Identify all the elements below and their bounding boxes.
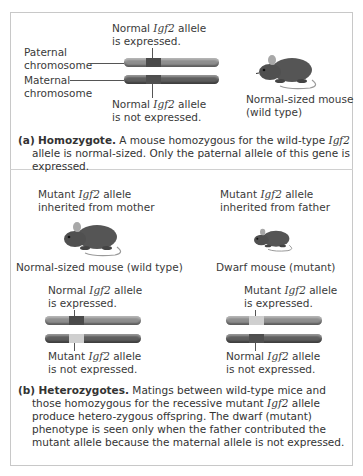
label-a-top-allele: Normal Igf2 allele is expressed. — [112, 22, 206, 48]
label-a-bottom-allele: Normal Igf2 allele is not expressed. — [112, 98, 206, 124]
label-b-left-title: Mutant Igf2 allele inherited from mother — [38, 188, 154, 214]
normal-allele-band — [69, 316, 84, 325]
label-b-left-mouse: Normal-sized mouse (wild type) — [16, 261, 183, 274]
pointer-line — [88, 63, 124, 64]
label-b-right-top-allele: Mutant Igf2 allele is expressed. — [244, 284, 337, 310]
maternal-chromosome-a — [124, 75, 219, 84]
label-b-left-top-allele: Normal Igf2 allele is expressed. — [48, 284, 142, 310]
label-b-left-bottom-allele: Mutant Igf2 allele is not expressed. — [48, 350, 141, 376]
label-a-mouse: Normal-sized mouse(wild type) — [246, 93, 353, 119]
normal-allele-band — [249, 334, 264, 343]
caption-a: (a) Homozygote. A mouse homozygous for t… — [18, 134, 363, 173]
caption-b: (b) Heterozygotes. Matings between wild-… — [18, 384, 350, 449]
pointer-line — [152, 48, 153, 58]
mouse-icon-dwarf — [248, 224, 298, 252]
mutant-allele-band — [69, 334, 84, 343]
label-b-right-title: Mutant Igf2 allele inherited from father — [220, 188, 330, 214]
label-maternal-chromosome: Maternalchromosome — [24, 74, 92, 100]
normal-allele-band — [146, 75, 161, 84]
mutant-allele-band — [249, 316, 264, 325]
maternal-chromosome-b-left — [45, 334, 141, 343]
pointer-line — [152, 84, 153, 98]
label-b-right-bottom-allele: Normal Igf2 allele is not expressed. — [226, 350, 320, 376]
paternal-chromosome-b-right — [226, 316, 322, 325]
mouse-icon-wildtype-a — [250, 48, 325, 90]
paternal-chromosome-b-left — [45, 316, 141, 325]
normal-allele-band — [146, 58, 161, 67]
paternal-chromosome-a — [124, 58, 219, 67]
label-paternal-chromosome: Paternalchromosome — [24, 46, 92, 72]
maternal-chromosome-b-right — [226, 334, 322, 343]
label-b-right-mouse: Dwarf mouse (mutant) — [216, 261, 335, 274]
mouse-icon-wildtype-b — [55, 215, 130, 257]
pointer-line — [70, 80, 124, 81]
